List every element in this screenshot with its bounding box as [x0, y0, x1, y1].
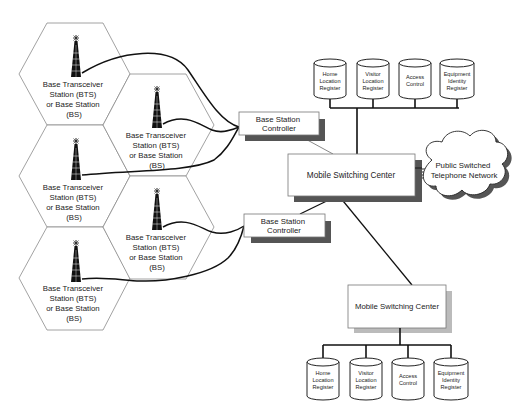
svg-text:AccessControl: AccessControl: [406, 74, 424, 87]
register-access-control-bottom: [392, 358, 424, 400]
svg-text:Mobile Switching Center: Mobile Switching Center: [355, 302, 439, 311]
mobile-switching-center-1: Mobile Switching Center: [288, 154, 422, 202]
pstn-cloud: Public Switched Telephone Network: [423, 130, 511, 199]
svg-text:Base Station Controller: Base Station Controller: [261, 217, 307, 235]
svg-text:Public Switched Telephon: Public Switched Telephone Network: [431, 161, 498, 180]
svg-text:VisitorLocationRegister: VisitorLocationRegister: [362, 71, 383, 91]
network-diagram: Base Transceiver Station (BTS) or Base S…: [0, 0, 521, 417]
svg-text:VisitorLocationRegister: VisitorLocationRegister: [355, 370, 376, 390]
svg-text:HomeLocationRegister: HomeLocationRegister: [312, 370, 333, 390]
mobile-switching-center-2: Mobile Switching Center: [348, 285, 452, 333]
base-station-controller-2: Base Station Controller: [244, 214, 331, 243]
svg-text:Mobile Switching Center: Mobile Switching Center: [307, 171, 396, 180]
svg-text:HomeLocationRegister: HomeLocationRegister: [319, 71, 340, 91]
base-station-controller-1: Base Station Controller: [239, 112, 325, 141]
svg-text:AccessControl: AccessControl: [399, 373, 417, 386]
link-msc1-msc2: [339, 196, 412, 285]
svg-text:Base Station Controller: Base Station Controller: [256, 115, 302, 133]
